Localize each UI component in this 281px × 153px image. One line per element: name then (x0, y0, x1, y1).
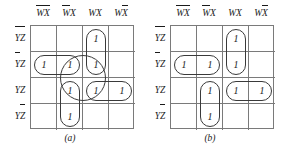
kmap-cell-value-r2c2: 1 (57, 52, 83, 78)
row-header-3: YZ (142, 77, 168, 103)
var-x: X (96, 8, 102, 18)
kmap-cell-r1c4[interactable] (109, 26, 135, 52)
kmap-cell-r1c1[interactable] (31, 26, 57, 52)
kmap-cell-value-r3c4: 1 (109, 78, 135, 104)
row-header-2: YZ (2, 51, 28, 77)
kmap-cell-value-r2c1: 1 (31, 52, 57, 78)
var-w: W (254, 8, 262, 18)
kmap-cell-value-r4c2: 1 (197, 104, 223, 130)
karnaugh-map-figure: WXWXWXWXYZYZYZYZ11111111(a)WXWXWXWXYZYZY… (0, 0, 281, 153)
row-header-column: YZYZYZYZ (2, 25, 28, 129)
kmap-cell-r3c1[interactable] (31, 78, 57, 104)
kmap-cell-r4c1[interactable] (31, 104, 57, 130)
var-w-negated: W (36, 4, 44, 22)
column-header-2: WX (196, 4, 222, 24)
kmap-panel-a: WXWXWXWXYZYZYZYZ11111111(a) (0, 0, 140, 153)
kmap-cell-r2c4[interactable] (249, 52, 275, 78)
column-header-4: WX (108, 4, 134, 24)
var-w-negated: W (62, 4, 70, 22)
kmap-cell-value-r3c3: 1 (83, 78, 109, 104)
column-header-3: WX (82, 4, 108, 24)
column-header-4: WX (248, 4, 274, 24)
var-y-negated: Y (15, 51, 20, 77)
kmap-cell-r4c3[interactable] (223, 104, 249, 130)
var-z-negated: Z (20, 103, 25, 129)
column-header-1: WX (30, 4, 56, 24)
kmap-grid: 11111111 (170, 25, 274, 129)
column-header-row: WXWXWXWX (170, 4, 274, 24)
kmap-cell-value-r1c3: 1 (83, 26, 109, 52)
row-header-column: YZYZYZYZ (142, 25, 168, 129)
var-x: X (70, 8, 76, 18)
var-x-negated: X (44, 4, 50, 22)
row-header-3: YZ (2, 77, 28, 103)
kmap-cell-value-r1c3: 1 (223, 26, 249, 52)
kmap-cell-r3c1[interactable] (171, 78, 197, 104)
var-w-negated: W (202, 4, 210, 22)
var-z: Z (20, 59, 25, 69)
var-w: W (88, 8, 96, 18)
var-w-negated: W (176, 4, 184, 22)
kmap-cell-r1c2[interactable] (57, 26, 83, 52)
column-header-3: WX (222, 4, 248, 24)
row-header-4: YZ (2, 103, 28, 129)
kmap-cell-value-r3c4: 1 (249, 78, 275, 104)
kmap-panel-b: WXWXWXWXYZYZYZYZ11111111(b) (140, 0, 280, 153)
var-z-negated: Z (160, 25, 165, 51)
kmap-cell-value-r2c2: 1 (197, 52, 223, 78)
var-x-negated: X (122, 4, 128, 22)
kmap-cell-value-r3c3: 1 (223, 78, 249, 104)
column-header-1: WX (170, 4, 196, 24)
kmap-cell-r1c1[interactable] (171, 26, 197, 52)
kmap-cell-r4c3[interactable] (83, 104, 109, 130)
var-z: Z (160, 59, 165, 69)
kmap-cell-value-r4c2: 1 (57, 104, 83, 130)
var-x: X (236, 8, 242, 18)
kmap-cell-r4c4[interactable] (249, 104, 275, 130)
var-z-negated: Z (20, 25, 25, 51)
kmap-cell-r4c1[interactable] (171, 104, 197, 130)
row-header-1: YZ (2, 25, 28, 51)
kmap-cell-r4c4[interactable] (109, 104, 135, 130)
kmap-cell-value-r2c3: 1 (83, 52, 109, 78)
kmap-cell-r1c4[interactable] (249, 26, 275, 52)
var-x-negated: X (262, 4, 268, 22)
kmap-cell-value-r2c3: 1 (223, 52, 249, 78)
kmap-grid: 11111111 (30, 25, 134, 129)
kmap-cell-value-r3c2: 1 (197, 78, 223, 104)
column-header-2: WX (56, 4, 82, 24)
var-z: Z (20, 85, 25, 95)
row-header-1: YZ (142, 25, 168, 51)
kmap-cell-value-r2c1: 1 (171, 52, 197, 78)
var-w: W (228, 8, 236, 18)
var-x: X (210, 8, 216, 18)
kmap-cell-value-r3c2: 1 (57, 78, 83, 104)
var-x-negated: X (184, 4, 190, 22)
var-z: Z (160, 85, 165, 95)
row-header-4: YZ (142, 103, 168, 129)
kmap-cell-r1c2[interactable] (197, 26, 223, 52)
var-y-negated: Y (155, 51, 160, 77)
kmap-caption: (a) (0, 133, 140, 143)
kmap-caption: (b) (140, 133, 280, 143)
var-w: W (114, 8, 122, 18)
row-header-2: YZ (142, 51, 168, 77)
kmap-cell-r2c4[interactable] (109, 52, 135, 78)
column-header-row: WXWXWXWX (30, 4, 134, 24)
var-z-negated: Z (160, 103, 165, 129)
